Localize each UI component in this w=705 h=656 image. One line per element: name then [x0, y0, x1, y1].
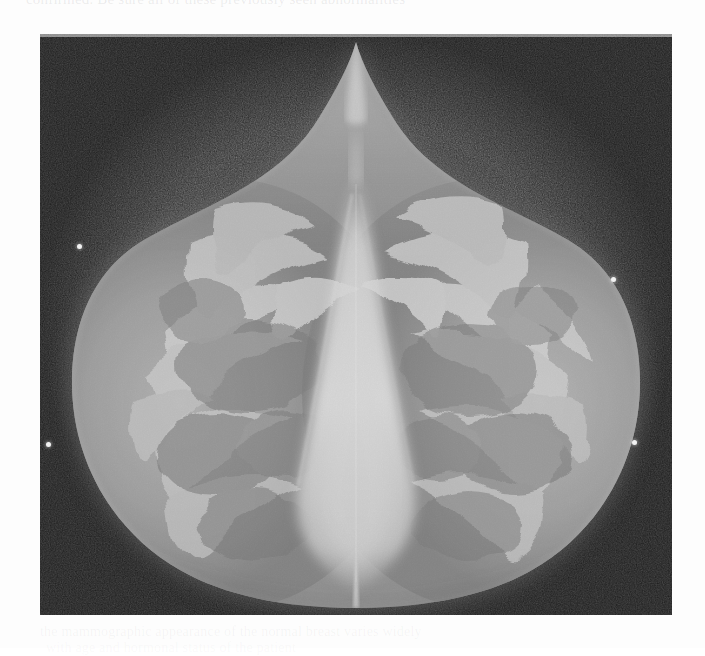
page-bleedthrough-text-1: the mammographic appearance of the norma… [40, 624, 680, 640]
mammogram-canvas [40, 34, 672, 615]
film-top-edge [40, 34, 672, 37]
page-bleedthrough-text-2: with age and hormonal status of the pati… [46, 640, 666, 656]
mammogram-image [40, 34, 672, 615]
page-cutoff-text-top: confirmed. Be sure all of these previous… [26, 0, 686, 8]
